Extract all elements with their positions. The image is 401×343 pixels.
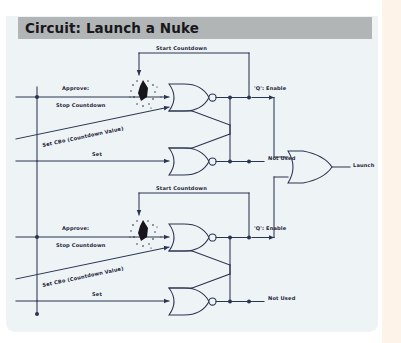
explosion-burst-icon-bottom <box>128 217 160 251</box>
label-q-enable-top: 'Q': Enable <box>254 86 286 91</box>
junction-dot <box>35 235 39 239</box>
top-nor-gate-a <box>169 84 209 111</box>
junction-dot <box>228 236 232 240</box>
circuit-diagram: Approve: Stop Countdown Set CBo (Countdo… <box>6 39 378 332</box>
figure-header-bar: Circuit: Launch a Nuke <box>18 17 372 39</box>
top-nor-a-bubble <box>209 94 216 101</box>
junction-dot <box>247 160 251 164</box>
label-q-enable-bottom: 'Q': Enable <box>254 226 286 231</box>
junction-dot <box>35 95 39 99</box>
label-launch: Launch <box>353 163 374 168</box>
label-set-bottom: Set <box>92 292 102 297</box>
bot-nor-gate-a <box>169 224 209 251</box>
bot-cross-b-diag <box>192 251 230 265</box>
explosion-burst-icon-top <box>128 77 160 111</box>
page-top-whitespace <box>6 6 378 16</box>
junction-dot <box>35 312 39 316</box>
junction-dot <box>247 96 251 100</box>
top-nor-b-bubble <box>209 158 216 165</box>
top-nor-gate-b <box>169 148 209 175</box>
page-title: Circuit: Launch a Nuke <box>18 20 199 36</box>
bot-nor-a-bubble <box>209 234 216 241</box>
bot-nor-gate-b <box>169 288 209 315</box>
junction-dot <box>247 300 251 304</box>
bot-cross-a-diag <box>192 274 230 288</box>
page-left-margin <box>0 0 4 343</box>
label-not-used-top: Not Used <box>268 156 295 161</box>
printed-page: Circuit: Launch a Nuke <box>6 6 378 332</box>
page-right-margin <box>382 0 401 343</box>
top-cross-b-diag <box>192 111 230 125</box>
label-start-countdown-bottom: Start Countdown <box>156 186 207 191</box>
label-not-used-bottom: Not Used <box>268 296 295 301</box>
label-stop-countdown-bottom: Stop Countdown <box>56 243 106 248</box>
junction-dot <box>228 96 232 100</box>
label-start-countdown-top: Start Countdown <box>156 46 207 51</box>
bot-nor-b-bubble <box>209 298 216 305</box>
label-set-top: Set <box>92 152 102 157</box>
junction-dot <box>247 236 251 240</box>
label-stop-countdown-top: Stop Countdown <box>56 103 106 108</box>
top-cross-a-diag <box>192 134 230 148</box>
junction-dot <box>228 300 232 304</box>
junction-dot <box>228 160 232 164</box>
label-approve-top: Approve: <box>62 86 89 91</box>
label-approve-bottom: Approve: <box>62 226 89 231</box>
screenshot-root: Circuit: Launch a Nuke <box>0 0 401 343</box>
